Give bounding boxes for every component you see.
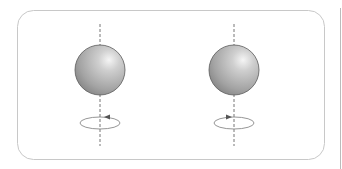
right-sphere xyxy=(209,45,259,95)
right-rotation-ellipse xyxy=(214,117,254,129)
left-rotation-arrow-icon xyxy=(104,115,110,120)
left-sphere xyxy=(75,45,125,95)
right-rotation-arrow-icon xyxy=(226,115,232,120)
left-sphere-group xyxy=(75,24,125,146)
rotation-diagram xyxy=(0,0,342,169)
left-rotation-ellipse xyxy=(80,117,120,129)
right-sphere-group xyxy=(209,24,259,146)
frame-box xyxy=(18,11,325,160)
